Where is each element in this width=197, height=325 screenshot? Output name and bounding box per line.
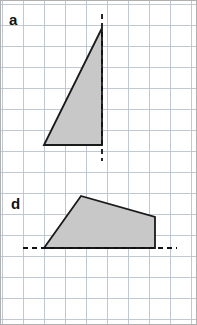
panel-label-a: a xyxy=(9,12,17,27)
panel-label-d: d xyxy=(11,196,20,211)
figure-canvas xyxy=(0,0,197,325)
geometry-figure: a d xyxy=(0,0,197,325)
